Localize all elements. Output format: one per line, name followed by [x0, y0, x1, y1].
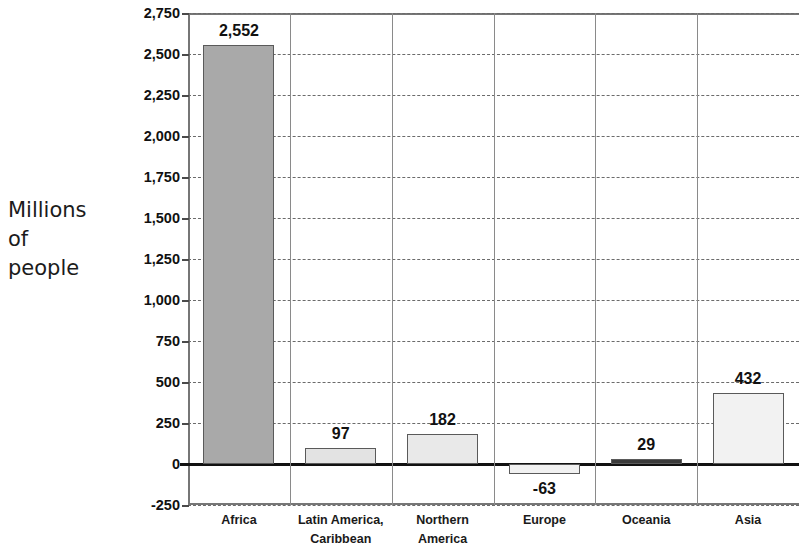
x-axis-category-label: Asia [697, 511, 799, 530]
y-axis-tick-label: 500 [120, 374, 180, 390]
x-axis-category-label: Latin America,Caribbean [290, 511, 392, 549]
category-separator [494, 13, 495, 505]
y-axis-tick-label: 250 [120, 415, 180, 431]
x-axis-category-label: NorthernAmerica [392, 511, 494, 549]
x-axis-category-line: Africa [188, 511, 290, 530]
x-axis-category-line: America [392, 530, 494, 549]
bar-value-label: 182 [392, 411, 494, 429]
y-axis-tick [182, 54, 189, 56]
y-axis-tick-label: 750 [120, 333, 180, 349]
y-axis-tick-label: 2,500 [120, 46, 180, 62]
y-axis-tick-label: 2,250 [120, 87, 180, 103]
y-axis-tick [182, 505, 189, 507]
y-axis-title: Millions of people [8, 196, 128, 283]
bar-value-label: 97 [290, 425, 392, 443]
x-axis-category-line: Oceania [595, 511, 697, 530]
y-axis-tick-label: 2,750 [120, 5, 180, 21]
y-axis-tick-label: 2,000 [120, 128, 180, 144]
bar-value-label: 29 [595, 436, 697, 454]
x-axis-category-label: Africa [188, 511, 290, 530]
bar-value-label: -63 [494, 480, 596, 498]
y-axis-tick-label: 0 [120, 456, 180, 472]
gridline [188, 505, 799, 506]
y-axis-tick [182, 259, 189, 261]
bar[interactable] [713, 393, 784, 464]
bar-value-label: 2,552 [188, 22, 290, 40]
bar[interactable] [203, 45, 274, 464]
y-axis-tick [182, 382, 189, 384]
y-axis-tick-labels: 2,7502,5002,2502,0001,7501,5001,2501,000… [118, 0, 180, 553]
bar[interactable] [407, 434, 478, 464]
y-axis-tick [182, 95, 189, 97]
y-axis-tick-label: 1,250 [120, 251, 180, 267]
y-axis-tick [182, 341, 189, 343]
y-axis-tick-label: 1,750 [120, 169, 180, 185]
x-axis-category-line: Latin America, [290, 511, 392, 530]
y-axis-tick [182, 177, 189, 179]
bar[interactable] [611, 459, 682, 464]
x-axis-category-line: Europe [494, 511, 596, 530]
y-axis-title-line-2: of [8, 225, 128, 254]
bar[interactable] [305, 448, 376, 464]
y-axis-tick-label: -250 [120, 497, 180, 513]
x-axis-category-label: Oceania [595, 511, 697, 530]
y-axis-title-line-1: Millions [8, 196, 128, 225]
x-axis-category-line: Asia [697, 511, 799, 530]
category-separator [595, 13, 596, 505]
y-axis-tick [182, 13, 189, 15]
plot-area: 2,55297182-6329432 [188, 13, 799, 505]
x-axis-category-line: Caribbean [290, 530, 392, 549]
y-axis-tick-label: 1,000 [120, 292, 180, 308]
bar[interactable] [509, 464, 580, 474]
y-axis-tick-label: 1,500 [120, 210, 180, 226]
x-axis-category-line: Northern [392, 511, 494, 530]
y-axis-tick [182, 218, 189, 220]
x-axis-category-label: Europe [494, 511, 596, 530]
bar-value-label: 432 [697, 370, 799, 388]
category-separator [697, 13, 698, 505]
y-axis-title-line-3: people [8, 254, 128, 283]
category-separator [392, 13, 393, 505]
y-axis-tick [182, 300, 189, 302]
y-axis-tick [182, 136, 189, 138]
y-axis-tick [182, 423, 189, 425]
